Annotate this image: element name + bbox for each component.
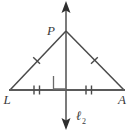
triangle-pla bbox=[9, 31, 125, 90]
line-label-l2-subscript: 2 bbox=[82, 117, 86, 126]
vertex-label-a: A bbox=[117, 92, 126, 107]
right-angle-mark bbox=[54, 76, 67, 89]
segment-lp bbox=[10, 31, 66, 90]
vertex-label-p: P bbox=[46, 23, 55, 38]
vertex-label-l: L bbox=[2, 92, 10, 107]
figure-canvas: P L A ℓ 2 bbox=[0, 0, 132, 131]
right-angle-square bbox=[54, 76, 67, 89]
line-l2 bbox=[62, 1, 71, 130]
geometry-figure: P L A ℓ 2 bbox=[0, 0, 132, 131]
